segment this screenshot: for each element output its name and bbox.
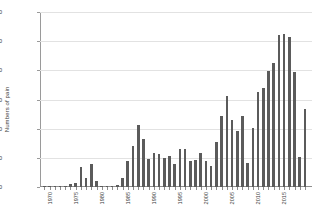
x-tick-mark [289, 187, 290, 190]
bar [189, 161, 192, 187]
x-tick-mark [180, 187, 181, 190]
x-tick-mark [65, 187, 66, 190]
bar [90, 164, 93, 187]
x-tick-mark [169, 187, 170, 190]
x-tick-label: 1995 [177, 192, 183, 204]
gridline [40, 100, 312, 101]
x-tick-mark [190, 187, 191, 190]
x-tick-mark [86, 187, 87, 190]
x-tick-mark [117, 187, 118, 190]
bar [205, 161, 208, 187]
x-tick-mark [70, 187, 71, 190]
bar [126, 161, 129, 187]
x-tick-mark [300, 187, 301, 190]
x-tick-mark [159, 187, 160, 190]
bar [153, 153, 156, 187]
bar [137, 125, 140, 187]
x-tick-mark [133, 187, 134, 190]
bar [278, 35, 281, 187]
x-tick-mark [284, 187, 285, 190]
x-tick-mark [91, 187, 92, 190]
x-tick-mark [175, 187, 176, 190]
bar [158, 154, 161, 187]
bar [199, 153, 202, 187]
bar [267, 71, 270, 187]
bar [252, 128, 255, 187]
x-tick-mark [60, 187, 61, 190]
x-tick-mark [44, 187, 45, 190]
x-tick-label: 2005 [229, 192, 235, 204]
bar [80, 167, 83, 187]
x-tick-mark [143, 187, 144, 190]
x-tick-mark [112, 187, 113, 190]
bar [272, 63, 275, 187]
bar-chart: Numbers of pain 050010001500200025003000… [0, 0, 318, 219]
x-tick-mark [102, 187, 103, 190]
x-tick-mark [268, 187, 269, 190]
bar [226, 96, 229, 187]
x-tick-mark [128, 187, 129, 190]
bar [194, 160, 197, 187]
x-tick-label: 1980 [99, 192, 105, 204]
x-tick-mark [263, 187, 264, 190]
x-tick-mark [123, 187, 124, 190]
bar [304, 109, 307, 187]
bar [241, 116, 244, 187]
x-tick-label: 1985 [125, 192, 131, 204]
bar [236, 131, 239, 187]
x-tick-mark [237, 187, 238, 190]
bar [288, 37, 291, 188]
x-tick-mark [279, 187, 280, 190]
gridline [40, 12, 312, 13]
y-tick-label: 3000 [0, 9, 2, 15]
x-tick-label: 1975 [73, 192, 79, 204]
bar [210, 166, 213, 187]
bar [246, 163, 249, 187]
gridline [40, 129, 312, 130]
y-tick-label: 500 [0, 155, 2, 161]
bar [220, 116, 223, 187]
gridline [40, 70, 312, 71]
x-tick-mark [206, 187, 207, 190]
bar [262, 88, 265, 187]
y-tick-label: 1500 [0, 97, 2, 103]
x-tick-mark [50, 187, 51, 190]
x-tick-label: 1990 [151, 192, 157, 204]
x-tick-mark [164, 187, 165, 190]
bar [142, 139, 145, 187]
x-tick-mark [211, 187, 212, 190]
bar [85, 178, 88, 187]
bar [163, 158, 166, 187]
x-tick-label: 2000 [203, 192, 209, 204]
y-tick-label: 2500 [0, 38, 2, 44]
x-tick-mark [196, 187, 197, 190]
x-tick-mark [274, 187, 275, 190]
y-axis-title: Numbers of pain [0, 0, 14, 219]
bar [215, 142, 218, 187]
x-tick-mark [222, 187, 223, 190]
bar [184, 149, 187, 187]
x-tick-mark [242, 187, 243, 190]
gridline [40, 158, 312, 159]
x-tick-label: 2015 [281, 192, 287, 204]
plot-area [40, 12, 312, 187]
bar [168, 156, 171, 187]
x-tick-mark [258, 187, 259, 190]
bar [298, 157, 301, 187]
y-tick-label: 1000 [0, 126, 2, 132]
x-tick-mark [76, 187, 77, 190]
bar [132, 146, 135, 187]
y-tick-label: 2000 [0, 67, 2, 73]
x-tick-mark [185, 187, 186, 190]
bar [257, 92, 260, 187]
x-tick-mark [305, 187, 306, 190]
x-tick-mark [149, 187, 150, 190]
bar [179, 149, 182, 187]
x-tick-mark [138, 187, 139, 190]
gridline [40, 41, 312, 42]
x-tick-mark [154, 187, 155, 190]
y-tick-label: 0 [0, 184, 2, 190]
x-tick-mark [107, 187, 108, 190]
bar [293, 72, 296, 187]
x-tick-mark [81, 187, 82, 190]
